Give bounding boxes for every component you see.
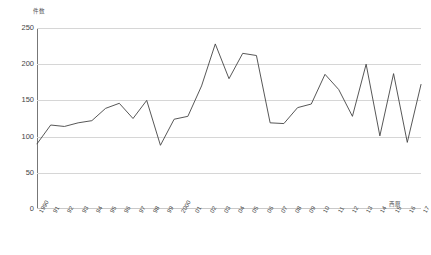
x-tick-14: 14: [379, 205, 388, 214]
x-tick-11: 11: [337, 206, 345, 214]
plot-area: [37, 28, 421, 209]
x-tick-04: 04: [237, 205, 246, 214]
x-tick-16: 16: [408, 205, 417, 214]
x-tick-07: 07: [280, 205, 289, 214]
y-axis-title: 件数: [33, 7, 45, 15]
x-tick-05: 05: [251, 205, 260, 214]
x-tick-96: 96: [123, 205, 132, 214]
x-tick-08: 08: [294, 205, 303, 214]
x-tick-01: 01: [194, 205, 203, 214]
y-tick-250: 250: [4, 23, 34, 32]
x-tick-99: 99: [166, 205, 175, 214]
data-series-line: [37, 28, 421, 209]
x-tick-10: 10: [322, 205, 331, 214]
x-tick-09: 09: [308, 205, 317, 214]
y-axis-tick-labels: 250 200 150 100 50 0: [0, 28, 34, 209]
y-tick-150: 150: [4, 95, 34, 104]
x-tick-03: 03: [223, 205, 232, 214]
y-tick-50: 50: [4, 168, 34, 177]
x-tick-95: 95: [109, 205, 118, 214]
x-tick-98: 98: [152, 205, 161, 214]
x-tick-13: 13: [365, 205, 374, 214]
x-tick-17: 17: [422, 205, 431, 214]
y-tick-100: 100: [4, 132, 34, 141]
x-tick-92: 92: [66, 205, 75, 214]
x-tick-12: 12: [351, 205, 360, 214]
y-tick-200: 200: [4, 59, 34, 68]
x-axis-tick-labels: 1990919293949596979899200001020304050607…: [37, 211, 421, 255]
y-tick-0: 0: [4, 204, 34, 213]
x-tick-91: 91: [52, 205, 61, 214]
x-tick-94: 94: [95, 205, 104, 214]
